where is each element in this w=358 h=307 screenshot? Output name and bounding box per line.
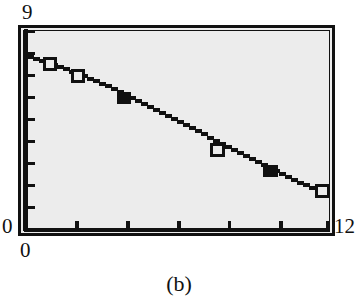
- figure-panel-b: 9 0 0 12 (b): [0, 0, 358, 307]
- data-marker-open-square: [211, 144, 223, 155]
- x-axis-spine: [24, 228, 330, 232]
- data-marker-open-square: [44, 58, 55, 69]
- data-marker-open-square: [316, 185, 328, 196]
- data-marker-open-square: [72, 70, 83, 81]
- plot-area: [0, 0, 358, 307]
- x-axis-min-label: 0: [20, 240, 31, 261]
- data-marker-filled-square: [263, 165, 278, 177]
- y-axis-spine: [24, 29, 28, 232]
- data-marker-filled-square: [117, 92, 131, 104]
- y-axis-min-label: 0: [2, 216, 13, 237]
- figure-caption: (b): [0, 272, 358, 296]
- x-axis-max-label: 12: [334, 216, 355, 237]
- plot-background: [21, 28, 332, 233]
- y-axis-max-label: 9: [22, 2, 33, 23]
